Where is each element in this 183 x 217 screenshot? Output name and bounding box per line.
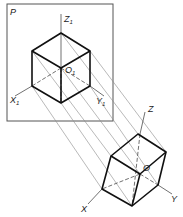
y-label: Y — [171, 194, 178, 204]
y-axis — [158, 185, 172, 194]
x1-axis — [15, 86, 32, 96]
y-axis-hidden — [140, 174, 158, 185]
axonometric-projection-diagram: P Z1 O1 X1 Y1 — [0, 0, 183, 217]
x-axis-hidden — [102, 174, 140, 189]
x-axis — [88, 189, 102, 204]
x-label: X — [80, 204, 88, 214]
plane-label: P — [10, 7, 16, 17]
o-label: O — [143, 163, 150, 173]
space-cube — [102, 134, 166, 206]
y1-axis — [90, 86, 104, 96]
x1-label: X1 — [9, 95, 19, 106]
projector-lines — [32, 33, 166, 206]
z-label: Z — [147, 104, 154, 114]
space-axes — [88, 112, 172, 206]
z1-label: Z1 — [63, 14, 73, 25]
y1-label: Y1 — [96, 96, 105, 107]
o1-label: O1 — [65, 65, 75, 76]
